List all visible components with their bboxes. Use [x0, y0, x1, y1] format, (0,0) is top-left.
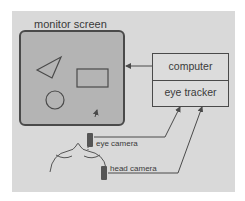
eye-camera-to-tracker-arrow [94, 107, 180, 137]
diagram-graphics [0, 0, 245, 201]
gaze-pointer-icon [95, 110, 97, 117]
triangle-icon [37, 57, 61, 78]
rectangle-icon [77, 69, 108, 87]
head-icon [50, 144, 106, 173]
circle-icon [46, 91, 64, 109]
head-camera-to-tracker-arrow [108, 107, 202, 173]
